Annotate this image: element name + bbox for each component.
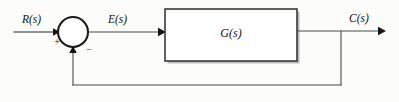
input-signal-label: R(s) <box>21 13 41 26</box>
block-diagram-svg: R(s) E(s) C(s) G(s) + − <box>0 0 399 102</box>
block-diagram-canvas: R(s) E(s) C(s) G(s) + − <box>0 0 399 102</box>
output-arrowhead-icon <box>378 27 386 35</box>
input-wire-group <box>14 28 60 36</box>
plant-block-label: G(s) <box>220 26 241 40</box>
summing-junction-circle <box>58 17 88 47</box>
summing-junction-plus-sign: + <box>54 36 60 47</box>
output-signal-label: C(s) <box>349 12 369 25</box>
summing-junction-group <box>58 17 88 47</box>
error-signal-label: E(s) <box>107 13 127 26</box>
error-wire-group <box>88 28 166 36</box>
summing-junction-minus-sign: − <box>86 44 92 55</box>
